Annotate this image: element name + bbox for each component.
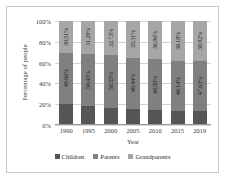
bar-segment-grandparents[interactable]: 35.31% xyxy=(126,21,140,58)
bar-value-label: 38.92% xyxy=(197,32,203,50)
bar-value-label: 48.50% xyxy=(152,76,158,94)
x-axis-line xyxy=(55,124,211,125)
x-axis-tick-label: 2019 xyxy=(191,127,209,134)
bar-value-label: 32.73% xyxy=(108,29,114,47)
legend-item[interactable]: Children xyxy=(55,153,85,160)
bar-segment-grandparents[interactable]: 36.96% xyxy=(148,21,162,59)
legend-swatch-icon xyxy=(128,154,133,159)
legend-label: Children xyxy=(62,153,85,160)
bar-value-label: 30.51% xyxy=(63,28,69,46)
x-axis-tick-labels: 1990199520002005201020152019 xyxy=(55,127,211,134)
bar-segment-parents[interactable]: 50.45% xyxy=(81,54,95,106)
bar-value-label: 48.14% xyxy=(175,77,181,95)
plot-area: 0%20%40%60%80%100% 30.51%49.06%31.29%50.… xyxy=(55,21,211,125)
bar-value-label: 38.18% xyxy=(175,32,181,50)
bar-segment-children[interactable] xyxy=(193,111,207,125)
legend-swatch-icon xyxy=(55,154,60,159)
bar-segment-children[interactable] xyxy=(171,111,185,125)
bar-segment-grandparents[interactable]: 38.18% xyxy=(171,21,185,61)
bar-segment-children[interactable] xyxy=(148,110,162,125)
y-axis-tick-label: 40% xyxy=(39,80,51,87)
bar-segment-children[interactable] xyxy=(81,106,95,125)
bar-column[interactable]: 35.31%49.44% xyxy=(126,21,140,125)
x-axis-title: Year xyxy=(55,138,211,145)
chart-container: Percentage of people 0%20%40%60%80%100% … xyxy=(6,6,219,173)
bar-value-label: 31.29% xyxy=(85,28,91,46)
gridline xyxy=(55,125,211,126)
bar-segment-parents[interactable]: 50.55% xyxy=(104,55,118,108)
legend-label: Parents xyxy=(100,153,119,160)
bar-segment-parents[interactable]: 48.14% xyxy=(171,61,185,111)
x-axis-tick-label: 2010 xyxy=(146,127,164,134)
bar-segment-grandparents[interactable]: 32.73% xyxy=(104,21,118,55)
bar-segment-parents[interactable]: 49.44% xyxy=(126,58,140,109)
bar-segment-grandparents[interactable]: 31.29% xyxy=(81,21,95,54)
bar-segment-parents[interactable]: 49.06% xyxy=(59,53,73,104)
bar-column[interactable]: 30.51%49.06% xyxy=(59,21,73,125)
bar-column[interactable]: 38.18%48.14% xyxy=(171,21,185,125)
bar-value-label: 36.96% xyxy=(152,31,158,49)
bar-column[interactable]: 31.29%50.45% xyxy=(81,21,95,125)
x-axis-tick-label: 2005 xyxy=(124,127,142,134)
bar-value-label: 47.63% xyxy=(197,77,203,95)
bar-segment-children[interactable] xyxy=(59,104,73,125)
bar-column[interactable]: 32.73%50.55% xyxy=(104,21,118,125)
bar-column[interactable]: 36.96%48.50% xyxy=(148,21,162,125)
x-axis-tick-label: 1995 xyxy=(79,127,97,134)
y-axis-tick-label: 20% xyxy=(39,101,51,108)
bar-value-label: 35.31% xyxy=(130,30,136,48)
y-axis-tick-label: 100% xyxy=(36,18,51,25)
chart-legend: ChildrenParentsGrandparents xyxy=(7,153,218,160)
legend-swatch-icon xyxy=(93,154,98,159)
x-axis-tick-label: 2000 xyxy=(102,127,120,134)
bar-segment-children[interactable] xyxy=(104,108,118,125)
bar-value-label: 49.06% xyxy=(63,69,69,87)
y-axis-tick-label: 60% xyxy=(39,59,51,66)
bar-value-label: 50.55% xyxy=(108,72,114,90)
bar-value-label: 49.44% xyxy=(130,74,136,92)
bar-segment-grandparents[interactable]: 30.51% xyxy=(59,21,73,53)
bar-segment-children[interactable] xyxy=(126,109,140,125)
bar-series-group: 30.51%49.06%31.29%50.45%32.73%50.55%35.3… xyxy=(55,21,211,125)
bar-segment-grandparents[interactable]: 38.92% xyxy=(193,21,207,61)
legend-item[interactable]: Parents xyxy=(93,153,119,160)
bar-segment-parents[interactable]: 48.50% xyxy=(148,59,162,109)
y-axis-tick-label: 0% xyxy=(42,122,51,129)
y-axis-title: Percentage of people xyxy=(21,28,28,118)
x-axis-tick-label: 2015 xyxy=(169,127,187,134)
bar-column[interactable]: 38.92%47.63% xyxy=(193,21,207,125)
legend-label: Grandparents xyxy=(135,153,170,160)
bar-value-label: 50.45% xyxy=(85,71,91,89)
legend-item[interactable]: Grandparents xyxy=(128,153,170,160)
y-axis-tick-label: 80% xyxy=(39,38,51,45)
bar-segment-parents[interactable]: 47.63% xyxy=(193,61,207,111)
x-axis-tick-label: 1990 xyxy=(57,127,75,134)
